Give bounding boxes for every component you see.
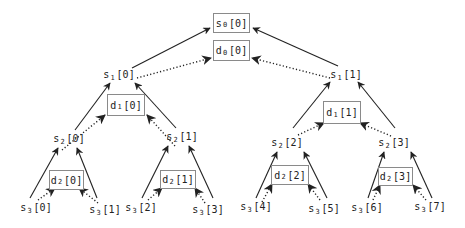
node-base: s <box>414 201 420 212</box>
boxed-node-d2-3: d2[3] <box>378 167 413 186</box>
dotted-arrow-edge <box>252 58 330 78</box>
solid-arrow-edge <box>253 28 338 66</box>
boxed-node-d0-0: d0[0] <box>213 40 250 61</box>
boxed-node-d2-0: d2[0] <box>49 170 84 190</box>
node-label-s3-5: s3[5] <box>308 203 339 216</box>
node-base: d <box>51 175 57 186</box>
dotted-arrow-edge <box>360 123 391 136</box>
node-subscript: 1 <box>117 103 121 111</box>
dotted-arrow-edge <box>373 185 380 200</box>
dotted-arrow-edge <box>148 188 162 200</box>
node-base: s <box>378 137 384 148</box>
boxed-node-d1-0: d1[0] <box>107 94 145 116</box>
node-base: s <box>53 133 59 144</box>
node-label-s2-1: s2[1] <box>166 131 197 144</box>
node-index: [0] <box>229 18 247 29</box>
node-index: [5] <box>322 203 340 214</box>
node-label-s2-2: s2[2] <box>271 137 302 150</box>
solid-arrow-edge <box>132 28 210 68</box>
node-subscript: 1 <box>333 111 337 119</box>
node-index: [0] <box>229 45 247 56</box>
node-subscript: 1 <box>110 74 114 82</box>
dotted-arrow-edge <box>137 58 211 78</box>
solid-arrow-edge <box>411 152 432 198</box>
node-base: d <box>162 174 168 185</box>
node-subscript: 0 <box>223 21 227 29</box>
node-index: [0] <box>34 202 52 213</box>
node-subscript: 0 <box>223 49 227 57</box>
node-subscript: 3 <box>315 208 319 216</box>
node-index: [3] <box>393 171 411 182</box>
node-subscript: 3 <box>247 206 251 214</box>
node-subscript: 3 <box>132 207 136 215</box>
dotted-arrow-edge <box>262 184 272 202</box>
boxed-node-d2-1: d2[1] <box>160 170 196 189</box>
node-subscript: 3 <box>421 206 425 214</box>
node-index: [2] <box>288 170 306 181</box>
node-label-s1-1: s1[1] <box>330 69 361 82</box>
node-base: s <box>351 202 357 213</box>
node-subscript: 2 <box>60 138 64 146</box>
node-label-s1-0: s1[0] <box>103 69 134 82</box>
node-base: s <box>216 18 222 29</box>
node-label-s3-3: s3[3] <box>192 204 223 217</box>
solid-arrow-edge <box>358 82 395 128</box>
node-base: s <box>308 203 314 214</box>
node-index: [0] <box>67 133 85 144</box>
edge-layer <box>0 0 465 228</box>
node-base: s <box>125 202 131 213</box>
boxed-node-d2-2: d2[2] <box>271 165 309 185</box>
node-subscript: 3 <box>358 207 362 215</box>
node-index: [7] <box>428 201 446 212</box>
node-subscript: 3 <box>96 209 100 217</box>
node-index: [1] <box>180 131 198 142</box>
node-label-s3-7: s3[7] <box>414 201 445 214</box>
node-index: [6] <box>365 202 383 213</box>
node-index: [0] <box>124 100 142 111</box>
node-base: d <box>216 45 222 56</box>
node-index: [2] <box>285 137 303 148</box>
node-index: [3] <box>206 204 224 215</box>
node-label-s3-2: s3[2] <box>125 202 156 215</box>
node-base: s <box>89 204 95 215</box>
solid-arrow-edge <box>75 83 110 130</box>
boxed-node-d1-1: d1[1] <box>323 101 361 124</box>
node-base: s <box>240 201 246 212</box>
node-base: d <box>326 107 332 118</box>
node-label-s2-3: s2[3] <box>378 137 409 150</box>
node-base: s <box>20 202 26 213</box>
node-label-s2-0: s2[0] <box>53 133 84 146</box>
node-index: [1] <box>340 107 358 118</box>
node-base: s <box>103 69 109 80</box>
node-index: [1] <box>344 69 362 80</box>
node-label-s3-1: s3[1] <box>89 204 120 217</box>
dotted-arrow-edge <box>195 188 205 203</box>
node-subscript: 2 <box>385 142 389 150</box>
node-subscript: 2 <box>173 136 177 144</box>
node-subscript: 3 <box>199 209 203 217</box>
node-base: s <box>166 131 172 142</box>
node-subscript: 1 <box>337 74 341 82</box>
node-base: s <box>192 204 198 215</box>
node-base: s <box>330 69 336 80</box>
node-base: d <box>380 171 386 182</box>
node-subscript: 2 <box>387 175 391 183</box>
node-subscript: 2 <box>278 142 282 150</box>
node-label-s3-0: s3[0] <box>20 202 51 215</box>
node-subscript: 2 <box>58 178 62 186</box>
node-label-s3-6: s3[6] <box>351 202 382 215</box>
node-index: [0] <box>117 69 135 80</box>
node-subscript: 3 <box>27 207 31 215</box>
dotted-arrow-edge <box>298 123 324 135</box>
dotted-arrow-edge <box>79 188 98 203</box>
node-index: [3] <box>392 137 410 148</box>
node-label-s3-4: s3[4] <box>240 201 271 214</box>
node-index: [0] <box>64 175 82 186</box>
node-base: d <box>110 100 116 111</box>
node-index: [1] <box>103 204 121 215</box>
node-index: [1] <box>176 174 194 185</box>
node-index: [2] <box>139 202 157 213</box>
dotted-arrow-edge <box>308 184 320 200</box>
node-base: d <box>274 170 280 181</box>
dotted-arrow-edge <box>413 185 426 200</box>
